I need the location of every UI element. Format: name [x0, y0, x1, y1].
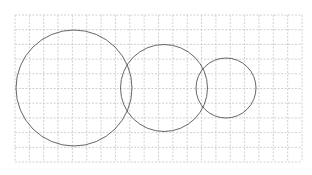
diagram-canvas	[0, 0, 312, 175]
circles-group	[16, 30, 256, 146]
large-circle	[16, 30, 132, 146]
medium-circle	[121, 45, 208, 132]
small-circle	[196, 58, 256, 118]
grid	[15, 15, 302, 162]
